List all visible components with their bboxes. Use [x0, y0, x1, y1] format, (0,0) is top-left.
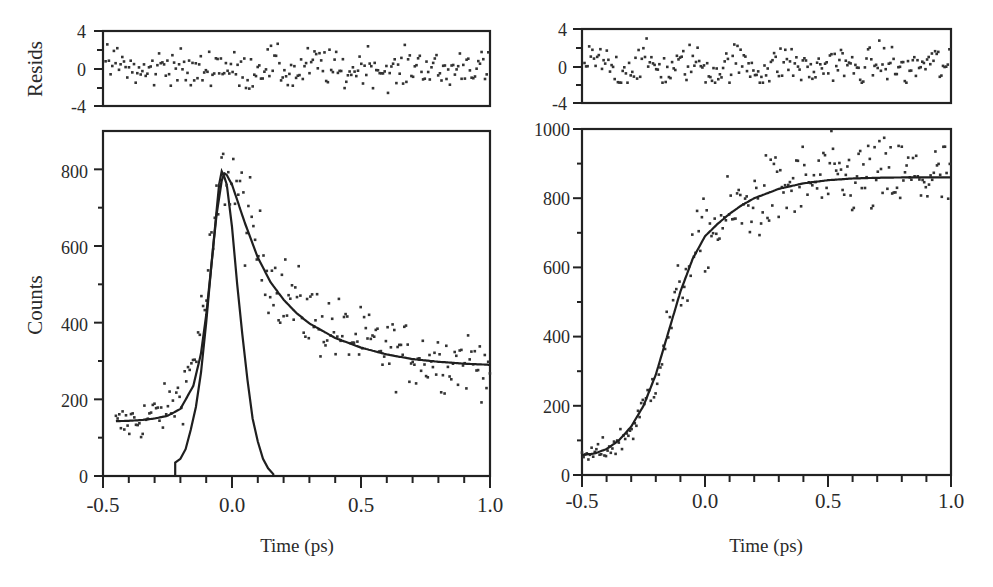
left-residuals-panel: Resids 4 0 -4 — [23, 22, 490, 117]
right-main-panel: 0 200 400 600 800 1000 -0.5 0.0 0.5 1.0 … — [534, 120, 964, 557]
right-ytick-400: 400 — [543, 327, 570, 347]
right-xtick-0.5: 0.5 — [815, 489, 841, 513]
left-xtick-neg0.5: -0.5 — [86, 493, 119, 517]
right-x-axis-ticks — [582, 475, 951, 487]
right-main-frame — [582, 129, 951, 475]
right-xlabel: Time (ps) — [729, 535, 803, 557]
left-main-panel: Counts 0 200 400 600 800 -0.5 0.0 0.5 1.… — [23, 131, 503, 557]
right-ytick-800: 800 — [543, 189, 570, 209]
right-ytick-0: 0 — [561, 466, 570, 486]
right-resid-frame — [582, 29, 951, 103]
right-resid-tick-4: 4 — [558, 20, 567, 40]
right-ytick-1000: 1000 — [534, 120, 570, 140]
right-ytick-200: 200 — [543, 397, 570, 417]
left-instrument-response-curve — [103, 171, 361, 476]
left-data-points — [115, 153, 492, 439]
left-main-frame — [103, 131, 490, 476]
left-ytick-0: 0 — [79, 467, 88, 487]
right-resid-tick-neg4: -4 — [552, 94, 567, 114]
left-xtick-0.0: 0.0 — [219, 493, 245, 517]
left-xtick-0.5: 0.5 — [348, 493, 374, 517]
left-ytick-200: 200 — [61, 391, 88, 411]
left-resid-tick-0: 0 — [77, 60, 86, 80]
right-xtick-1.0: 1.0 — [938, 489, 964, 513]
left-main-ylabel: Counts — [23, 275, 47, 335]
right-resid-tick-0: 0 — [558, 58, 567, 78]
left-fit-curve — [116, 173, 490, 421]
left-x-axis-ticks — [103, 476, 490, 488]
right-xtick-neg0.5: -0.5 — [565, 489, 598, 513]
right-data-points — [581, 130, 951, 461]
figure: Resids 4 0 -4 Counts 0 200 400 600 800 -… — [0, 0, 993, 587]
left-y-axis-ticks — [94, 169, 103, 476]
right-y-axis-ticks — [573, 129, 582, 475]
right-ytick-600: 600 — [543, 258, 570, 278]
left-xlabel: Time (ps) — [260, 535, 334, 557]
left-xtick-1.0: 1.0 — [477, 493, 503, 517]
left-residual-points — [104, 43, 489, 95]
left-ytick-800: 800 — [61, 162, 88, 182]
left-ytick-600: 600 — [61, 238, 88, 258]
left-ytick-400: 400 — [61, 315, 88, 335]
right-residual-points — [583, 37, 950, 84]
left-resid-tick-neg4: -4 — [71, 97, 86, 117]
right-residuals-panel: 4 0 -4 — [552, 20, 951, 114]
left-resid-ylabel: Resids — [23, 41, 47, 97]
right-xtick-0.0: 0.0 — [692, 489, 718, 513]
left-resid-tick-4: 4 — [77, 22, 86, 42]
